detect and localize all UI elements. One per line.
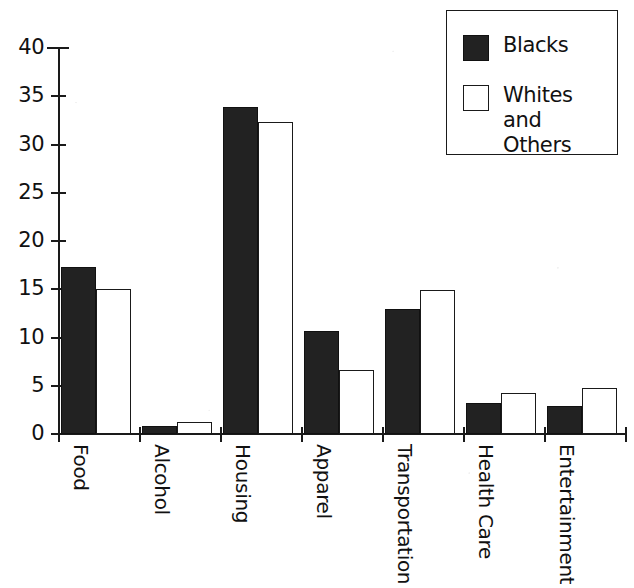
x-axis-tick (463, 427, 465, 442)
x-axis-tick (382, 427, 384, 442)
x-axis-tick (139, 427, 141, 442)
y-axis-tick (51, 95, 66, 97)
bar-whites-and-others-alcohol (177, 422, 212, 434)
bar-blacks-housing (223, 107, 258, 434)
legend-label-whites-and-others: Whites and Others (503, 83, 615, 158)
bar-blacks-food (61, 267, 96, 434)
y-axis-tick-label: 20 (0, 230, 44, 251)
bar-blacks-alcohol (142, 426, 177, 434)
bar-blacks-transportation (385, 309, 420, 434)
y-axis-tick (47, 47, 69, 49)
bar-blacks-health-care (466, 403, 501, 434)
y-axis-tick (51, 240, 66, 242)
bar-whites-and-others-apparel (339, 370, 374, 434)
legend: Blacks Whites and Others (446, 10, 618, 155)
legend-entry-whites-and-others: Whites and Others (463, 83, 615, 158)
y-axis-tick-label: 35 (0, 85, 44, 106)
x-axis-tick (220, 427, 222, 442)
x-axis-label-housing: Housing (232, 444, 254, 588)
bar-blacks-apparel (304, 331, 339, 434)
x-axis-tick (625, 427, 627, 442)
bar-whites-and-others-entertainment (582, 388, 617, 434)
x-axis-label-food: Food (70, 444, 92, 588)
bar-whites-and-others-transportation (420, 290, 455, 434)
y-axis-tick-label: 5 (0, 375, 44, 396)
x-axis-label-entertainment: Entertainment (556, 444, 578, 588)
bar-whites-and-others-health-care (501, 393, 536, 434)
x-axis-label-health-care: Health Care (475, 444, 497, 588)
x-axis-tick (544, 427, 546, 442)
y-axis-tick (51, 192, 66, 194)
y-axis-tick-label: 0 (0, 423, 44, 444)
bar-whites-and-others-food (96, 289, 131, 434)
y-axis-tick-label: 25 (0, 182, 44, 203)
y-axis-tick-label: 10 (0, 327, 44, 348)
bar-whites-and-others-housing (258, 122, 293, 434)
y-axis-tick (51, 144, 66, 146)
y-axis-tick-label: 30 (0, 134, 44, 155)
legend-label-blacks: Blacks (503, 33, 568, 58)
x-axis-tick (301, 427, 303, 442)
y-axis-tick-label: 15 (0, 278, 44, 299)
bar-blacks-entertainment (547, 406, 582, 434)
x-axis-label-transportation: Transportation (394, 444, 416, 588)
legend-entry-blacks: Blacks (463, 33, 568, 61)
x-axis-tick (58, 427, 60, 442)
y-axis-tick-label: 40 (0, 37, 44, 58)
open-square-icon (463, 85, 489, 111)
x-axis-label-alcohol: Alcohol (151, 444, 173, 588)
filled-square-icon (463, 35, 489, 61)
x-axis-label-apparel: Apparel (313, 444, 335, 588)
